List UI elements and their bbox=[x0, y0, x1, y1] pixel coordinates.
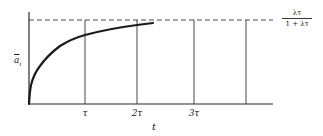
asymptote-numerator: λτ bbox=[282, 9, 312, 19]
x-axis-label: t bbox=[152, 121, 156, 132]
x-tick-label-tau: τ bbox=[83, 108, 88, 118]
x-tick-label-2tau: 2τ bbox=[132, 108, 143, 118]
asymptote-label: λτ 1 + λτ bbox=[282, 9, 312, 28]
chart-canvas bbox=[0, 0, 323, 136]
asymptote-denominator: 1 + λτ bbox=[282, 19, 312, 28]
data-curve bbox=[29, 23, 153, 104]
y-axis-label-sub: i bbox=[19, 60, 21, 67]
x-tick-label-3tau: 3τ bbox=[189, 108, 200, 118]
y-axis-label: ai bbox=[14, 55, 21, 67]
